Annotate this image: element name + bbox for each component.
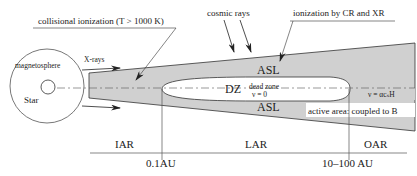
zone-iar-label: IAR	[115, 138, 135, 150]
active-viscosity-label: ν = αcₛH	[368, 90, 395, 99]
star-label: Star	[24, 95, 39, 105]
zone-lar-label: LAR	[245, 138, 268, 150]
asl-bottom-label: ASL	[257, 100, 280, 114]
xrays-arrow-bottom	[82, 106, 120, 108]
dz-label: DZ	[225, 82, 241, 96]
magnetosphere-label: magnetosphere	[15, 61, 61, 70]
ionization-cr-xr-label: ionization by CR and XR	[293, 8, 385, 18]
xrays-label: X-rays	[84, 55, 104, 64]
xrays-arrow-top	[82, 68, 120, 70]
zone-oar-label: OAR	[364, 138, 388, 150]
collisional-ionization-label: collisional ionization (T > 1000 K)	[38, 16, 164, 26]
active-area-label: active area: coupled to B	[308, 106, 397, 116]
dead-zone-viscosity-label: ν = 0	[252, 90, 267, 99]
cosmic-ray-arrow-1	[224, 20, 234, 52]
cosmic-rays-label: cosmic rays	[207, 8, 250, 18]
disk-ionization-diagram: magnetosphere Star collisional ionizatio…	[0, 0, 417, 176]
tick-label-0p1au: 0.1AU	[146, 157, 176, 169]
tick-label-10-100au: 10–100 AU	[322, 157, 373, 169]
star-circle	[41, 80, 55, 94]
cosmic-ray-arrow-2	[240, 20, 251, 52]
asl-top-label: ASL	[257, 63, 280, 77]
